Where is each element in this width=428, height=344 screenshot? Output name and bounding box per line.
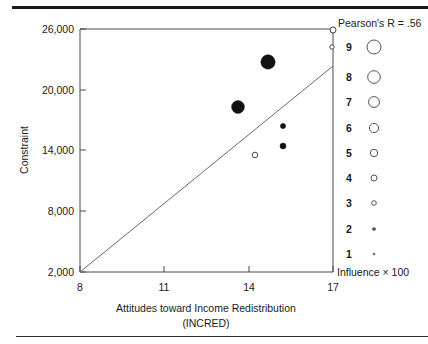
y-tick-label-2000: 2,000 xyxy=(48,266,74,278)
pearson-r-annotation: Pearson's R = .56 xyxy=(338,17,422,29)
legend-marker-5 xyxy=(370,149,377,156)
x-axis-ticks xyxy=(80,266,333,272)
y-tick-label-8000: 8,000 xyxy=(48,205,74,217)
legend-marker-9 xyxy=(367,40,381,54)
legend-label-5: 5 xyxy=(346,147,352,159)
legend-label-7: 7 xyxy=(346,96,352,108)
y-axis-ticks xyxy=(80,29,86,272)
data-point xyxy=(330,45,334,49)
data-point xyxy=(261,55,275,69)
x-tick-label-17: 17 xyxy=(327,281,339,293)
data-point xyxy=(252,152,258,158)
legend-marker-6 xyxy=(369,123,378,132)
scatter-plot: 26,000 20,000 14,000 8,000 2,000 Constra… xyxy=(0,0,428,344)
x-tick-label-8: 8 xyxy=(77,281,83,293)
legend-label-8: 8 xyxy=(346,71,352,83)
legend-label-9: 9 xyxy=(346,41,352,53)
data-point xyxy=(232,101,245,114)
legend-marker-3 xyxy=(372,201,377,206)
legend: 9 8 7 6 5 4 3 2 1 Influence × 100 xyxy=(337,40,409,278)
x-axis-subtitle: (INCRED) xyxy=(182,317,229,329)
legend-marker-8 xyxy=(368,71,381,84)
legend-title: Influence × 100 xyxy=(337,266,409,278)
y-axis-title: Constraint xyxy=(18,126,30,174)
data-points xyxy=(232,27,336,158)
data-point xyxy=(280,143,286,149)
legend-marker-7 xyxy=(369,97,380,108)
x-axis-title: Attitudes toward Income Redistribution xyxy=(116,302,296,314)
y-tick-label-14000: 14,000 xyxy=(42,144,74,156)
x-tick-label-14: 14 xyxy=(243,281,255,293)
legend-marker-4 xyxy=(371,175,377,181)
axis-frame xyxy=(80,29,333,272)
legend-label-6: 6 xyxy=(346,122,352,134)
legend-marker-1 xyxy=(373,253,375,255)
legend-marker-2 xyxy=(372,227,375,230)
legend-label-4: 4 xyxy=(346,172,352,184)
legend-label-1: 1 xyxy=(346,248,352,260)
data-point xyxy=(330,27,336,33)
regression-line xyxy=(80,66,333,272)
y-tick-label-26000: 26,000 xyxy=(42,23,74,35)
y-tick-label-20000: 20,000 xyxy=(42,84,74,96)
figure-container: 26,000 20,000 14,000 8,000 2,000 Constra… xyxy=(0,0,428,344)
x-tick-label-11: 11 xyxy=(159,281,170,293)
legend-label-3: 3 xyxy=(346,197,352,209)
data-point xyxy=(280,123,285,128)
legend-label-2: 2 xyxy=(346,223,352,235)
